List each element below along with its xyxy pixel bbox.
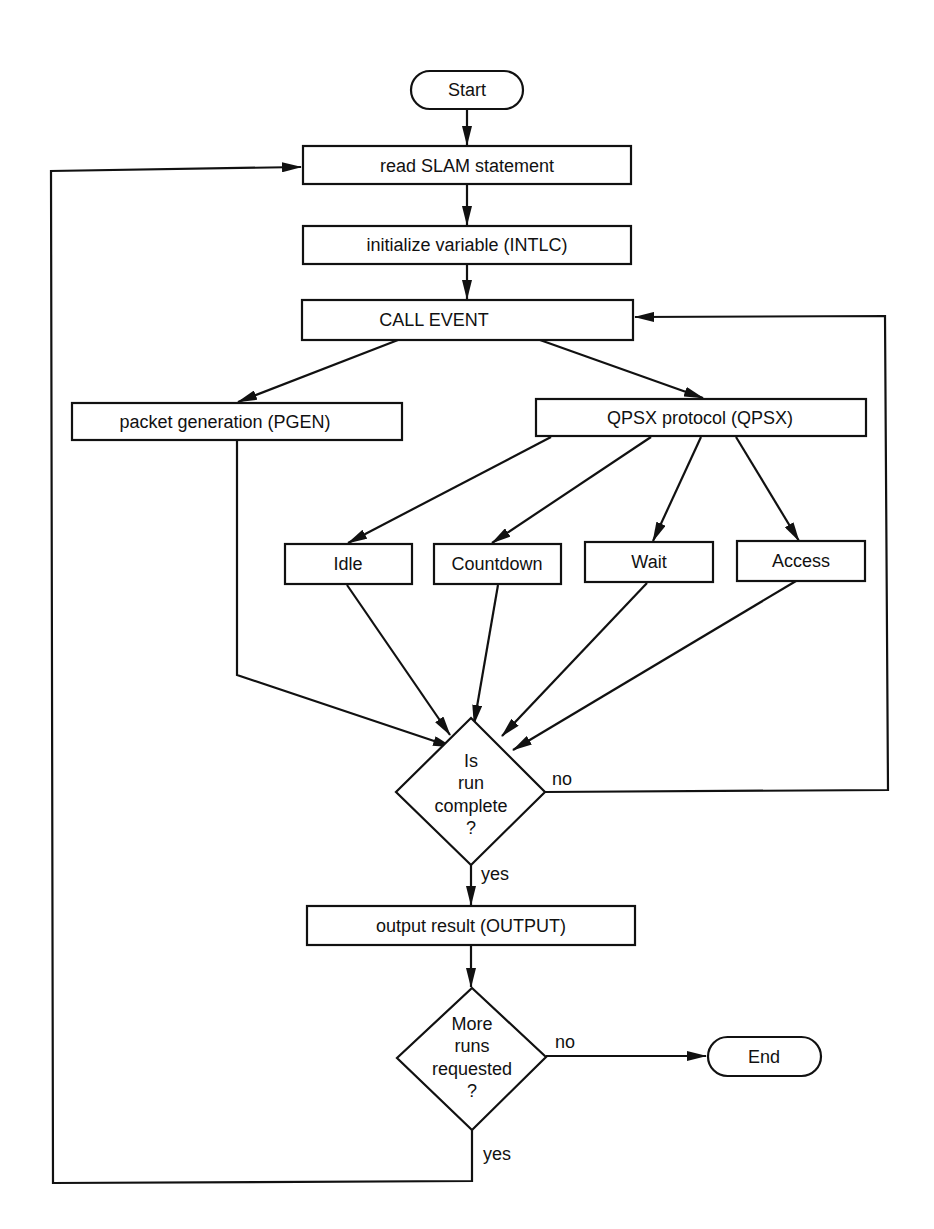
run-complete-yes-label: yes — [481, 864, 509, 884]
edge-qpsx-idle — [348, 437, 551, 543]
edge-countdown-runcomplete — [474, 585, 498, 724]
edge-idle-runcomplete — [347, 585, 450, 735]
edge-callevent-pgen — [238, 340, 398, 402]
countdown-box: Countdown — [434, 544, 561, 584]
output-result-label: output result (OUTPUT) — [376, 916, 566, 936]
edge-qpsx-wait — [653, 437, 701, 541]
output-result-box: output result (OUTPUT) — [307, 906, 635, 945]
call-event-label: CALL EVENT — [379, 310, 488, 330]
edge-qpsx-access — [736, 437, 799, 541]
qpsx-protocol-label: QPSX protocol (QPSX) — [607, 408, 793, 428]
flowchart: Start read SLAM statement initialize var… — [0, 0, 934, 1229]
end-label: End — [748, 1047, 780, 1067]
more-runs-line-4: ? — [467, 1081, 477, 1101]
run-complete-no-label: no — [552, 769, 572, 789]
edge-access-runcomplete — [513, 581, 796, 750]
more-runs-line-3: requested — [432, 1059, 512, 1079]
run-complete-line-4: ? — [466, 818, 476, 838]
end-terminal: End — [708, 1037, 821, 1076]
more-runs-line-2: runs — [454, 1036, 489, 1056]
run-complete-line-3: complete — [434, 796, 507, 816]
more-runs-line-1: More — [451, 1014, 492, 1034]
start-label: Start — [448, 80, 486, 100]
edge-pgen-runcomplete — [237, 440, 452, 747]
more-runs-no-label: no — [555, 1032, 575, 1052]
initialize-variable-box: initialize variable (INTLC) — [303, 226, 631, 264]
wait-box: Wait — [585, 542, 713, 582]
wait-label: Wait — [631, 552, 666, 572]
call-event-box: CALL EVENT — [302, 300, 633, 340]
qpsx-protocol-box: QPSX protocol (QPSX) — [536, 399, 866, 436]
countdown-label: Countdown — [451, 554, 542, 574]
run-complete-decision: Is run complete ? — [396, 718, 545, 865]
more-runs-decision: More runs requested ? — [397, 988, 546, 1130]
packet-generation-label: packet generation (PGEN) — [119, 412, 330, 432]
start-terminal: Start — [411, 71, 523, 109]
run-complete-line-2: run — [458, 773, 484, 793]
access-label: Access — [772, 551, 830, 571]
more-runs-yes-label: yes — [483, 1144, 511, 1164]
initialize-variable-label: initialize variable (INTLC) — [366, 235, 567, 255]
read-slam-statement-box: read SLAM statement — [303, 146, 631, 184]
idle-box: Idle — [285, 544, 412, 584]
read-slam-statement-label: read SLAM statement — [380, 156, 554, 176]
packet-generation-box: packet generation (PGEN) — [72, 403, 402, 440]
access-box: Access — [737, 541, 865, 581]
edge-callevent-qpsx — [540, 340, 703, 398]
run-complete-line-1: Is — [464, 751, 478, 771]
idle-label: Idle — [333, 554, 362, 574]
edge-qpsx-countdown — [492, 437, 651, 543]
